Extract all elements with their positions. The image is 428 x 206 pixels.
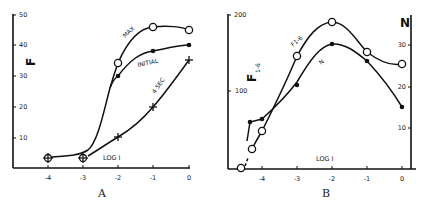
panel-a-xtick-0: 0: [187, 174, 191, 182]
panel-b-caption: B: [322, 187, 330, 200]
figure: 50 40 30 20 10 -4 -3 -2 -1 0 F: [0, 0, 428, 206]
panel-b-label-f16: F1-6: [289, 34, 304, 48]
panel-a-caption: A: [97, 187, 107, 200]
panel-b: 200 100 30 20 10 -4 -3 -2 -1 0 F 1-6 N: [228, 11, 416, 200]
panel-b-ylabel-sub: 1-6: [254, 63, 261, 73]
panel-a-start-markers: [43, 153, 88, 163]
panel-b-xtick-neg2: -2: [329, 175, 335, 183]
panel-b-n-curve: [247, 44, 402, 141]
panel-b-xtick-neg3: -3: [294, 175, 300, 183]
panel-b-ylabel-main: F: [245, 74, 259, 82]
panel-a-xtick-neg4: -4: [45, 174, 51, 182]
panel-b-ytick-100: 100: [235, 87, 247, 95]
panel-a-ytick-30: 30: [19, 72, 27, 80]
panel-b-f16-curve: [252, 22, 402, 149]
panel-a-xtick-neg3: -3: [80, 174, 86, 182]
panel-b-label-n: N: [317, 58, 325, 66]
panel-a-label-4sec: 4 SEC: [150, 76, 166, 94]
panel-a-ytick-50: 50: [19, 11, 27, 19]
panel-a-ytick-10: 10: [19, 134, 27, 142]
panel-a-xtick-neg1: -1: [150, 174, 156, 182]
panel-b-right-label: N: [400, 16, 410, 30]
panel-a-4sec-curve: [88, 60, 189, 156]
panel-a-label-initial: INITIAL: [137, 57, 160, 68]
panel-a-xtick-neg2: -2: [115, 174, 121, 182]
panel-b-rtick-20: 20: [398, 83, 406, 91]
panel-b-log-i: LOG I: [316, 155, 334, 163]
panel-b-ytick-200: 200: [234, 11, 246, 19]
panel-b-f16-markers: [237, 18, 405, 171]
panel-b-xtick-0: 0: [400, 175, 404, 183]
panel-a-4sec-markers: [114, 56, 193, 141]
panel-b-rtick-30: 30: [398, 41, 406, 49]
panel-b-xtick-neg1: -1: [364, 175, 370, 183]
panel-b-f16-dash: [245, 158, 248, 166]
panel-a-log-i: LOG I: [103, 154, 121, 162]
panel-a-ytick-20: 20: [19, 103, 27, 111]
panel-a: 50 40 30 20 10 -4 -3 -2 -1 0 F: [13, 11, 193, 200]
panel-a-ylabel: F: [24, 58, 38, 66]
panel-b-rtick-10: 10: [398, 124, 406, 132]
panel-a-ytick-40: 40: [19, 41, 27, 49]
panel-a-initial-curve: [110, 45, 189, 88]
panel-b-ylabel: F 1-6: [245, 63, 261, 82]
panel-b-xtick-neg4: -4: [259, 175, 265, 183]
